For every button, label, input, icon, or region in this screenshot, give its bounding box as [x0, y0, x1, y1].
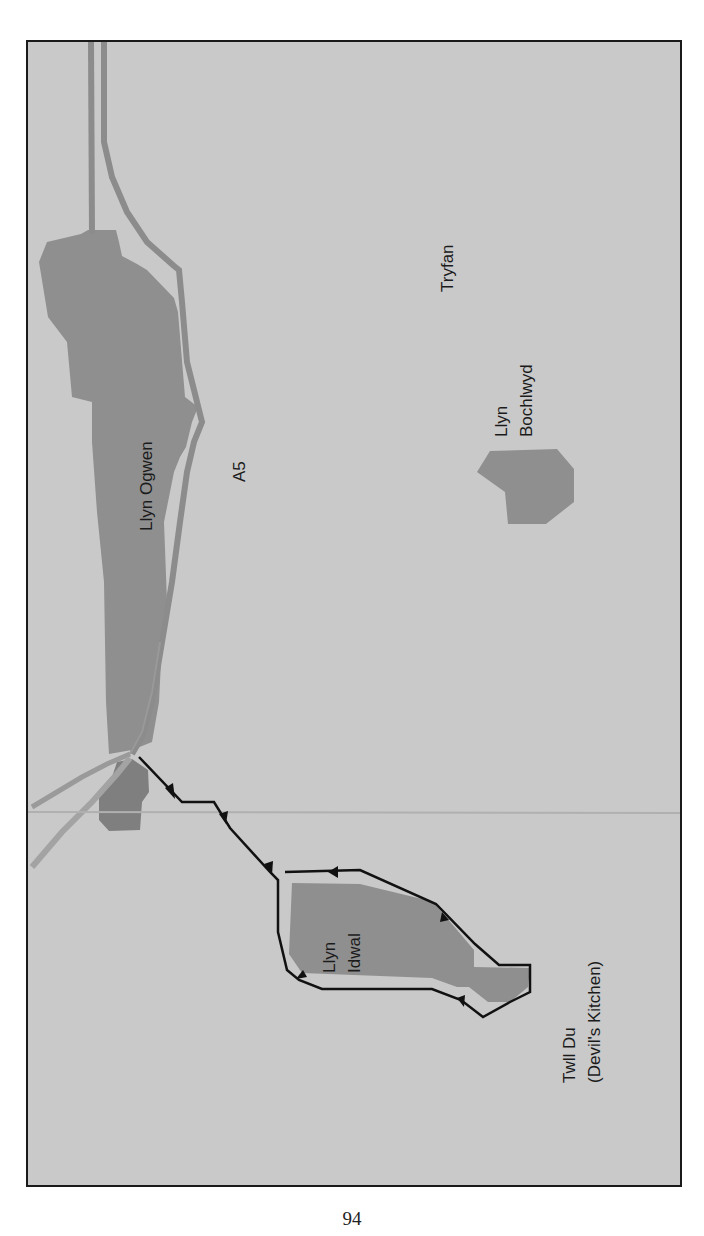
label-llyn-ogwen: Llyn Ogwen [137, 441, 156, 531]
label-a5: A5 [230, 461, 249, 482]
label-idwal-line2: Idwal [345, 933, 364, 973]
arrow-icon [457, 995, 465, 1007]
label-twll-du-line1: Twll Du [560, 1027, 579, 1083]
label-bochlwyd-line1: Llyn [492, 406, 511, 437]
lake-llyn-bochlwyd [477, 449, 574, 524]
label-idwal-line1: Llyn [320, 942, 339, 973]
label-bochlwyd-line2: Bochlwyd [517, 364, 536, 437]
gutter-line [28, 812, 682, 813]
map-frame: Llyn Ogwen A5 Tryfan Llyn Bochlwyd Llyn … [26, 40, 682, 1187]
road-a5 [91, 42, 92, 234]
label-twll-du-line2: (Devil's Kitchen) [585, 961, 604, 1083]
lake-llyn-ogwen [39, 230, 198, 754]
page-number: 94 [0, 1208, 704, 1230]
map-canvas [28, 42, 682, 1187]
arrow-icon [328, 866, 338, 878]
label-tryfan: Tryfan [438, 244, 457, 292]
